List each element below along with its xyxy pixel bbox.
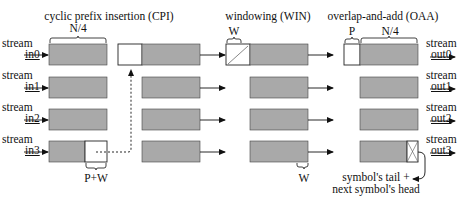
- n4-brace-output: [361, 36, 417, 43]
- n4-label-input: N/4: [69, 22, 86, 34]
- oaa-blocks: [344, 44, 418, 162]
- n4-brace-input: [50, 36, 106, 43]
- w-label-bottom: W: [299, 172, 310, 184]
- section-title-cpi: cyclic prefix insertion (CPI): [44, 10, 173, 22]
- output-port-3: out3: [431, 144, 451, 156]
- input-port-3: in3: [25, 144, 40, 156]
- output-port-2: out2: [431, 112, 451, 124]
- win-blocks: [226, 44, 308, 162]
- output-port-1: out1: [431, 80, 451, 92]
- output-port-0: out0: [431, 48, 451, 60]
- w-brace-bottom: [297, 163, 308, 169]
- cpi-input-blocks: [49, 44, 107, 162]
- pw-label: P+W: [84, 172, 108, 184]
- cpi-to-win-arrows: [200, 55, 225, 152]
- win-to-oaa-arrows: [308, 55, 333, 152]
- section-title-oaa: overlap-and-add (OAA): [328, 10, 439, 22]
- pw-brace: [86, 163, 106, 170]
- n4-label-output: N/4: [381, 25, 398, 37]
- tail-label-line2: next symbol's head: [332, 183, 420, 195]
- p-brace: [345, 37, 359, 43]
- w-label-top: W: [229, 25, 240, 37]
- cpi-output-blocks: [118, 44, 200, 162]
- section-title-win: windowing (WIN): [225, 10, 310, 22]
- p-label: P: [349, 25, 355, 37]
- input-port-1: in1: [25, 80, 40, 92]
- tail-label-line1: symbol's tail +: [342, 171, 409, 183]
- w-brace-top: [227, 37, 241, 43]
- input-port-2: in2: [25, 112, 40, 124]
- input-port-0: in0: [25, 48, 40, 60]
